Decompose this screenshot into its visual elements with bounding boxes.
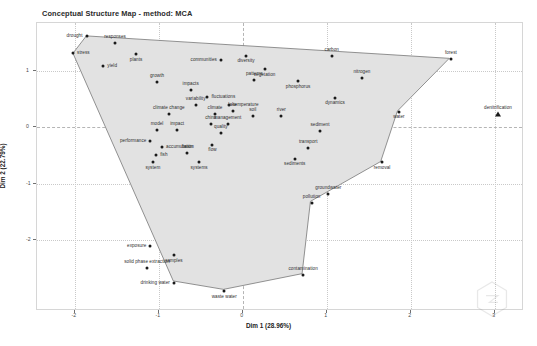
data-point[interactable]: [297, 80, 300, 83]
data-point-label: model: [151, 123, 164, 128]
data-point-label: responses: [104, 35, 126, 40]
data-point-label: systems: [190, 166, 207, 171]
data-point[interactable]: [172, 254, 175, 257]
y-tick-label: -1: [26, 180, 31, 186]
data-point[interactable]: [85, 34, 88, 37]
data-point[interactable]: [219, 132, 222, 135]
data-point[interactable]: [102, 64, 105, 67]
data-point-label: performance: [120, 139, 146, 144]
data-point[interactable]: [211, 143, 214, 146]
data-point-label: communities: [191, 58, 217, 63]
data-point-label: variability: [186, 97, 206, 102]
data-point[interactable]: [167, 112, 170, 115]
plot-panel: droughtresponsesstressplantsyieldcommuni…: [36, 22, 523, 310]
data-point[interactable]: [280, 115, 283, 118]
y-tickmark: [33, 70, 36, 71]
data-point-label: lake: [228, 104, 237, 109]
data-point-label: plants: [130, 58, 143, 63]
data-point-label: carbon: [325, 48, 339, 53]
data-point[interactable]: [156, 129, 159, 132]
data-point-label: river: [277, 109, 286, 114]
data-point[interactable]: [397, 110, 400, 113]
data-point[interactable]: [223, 290, 226, 293]
data-point[interactable]: [360, 76, 363, 79]
data-point[interactable]: [251, 114, 254, 117]
data-point[interactable]: [263, 68, 266, 71]
y-tickmark: [33, 239, 36, 240]
y-tick-label: -2: [26, 236, 31, 242]
data-point-label: growth: [150, 75, 164, 80]
data-point[interactable]: [189, 89, 192, 92]
data-point[interactable]: [293, 157, 296, 160]
page-title: Conceptual Structure Map - method: MCA: [42, 9, 192, 18]
gridline-vertical: [75, 23, 76, 309]
data-point-label: diversity: [237, 59, 254, 64]
data-point[interactable]: [307, 146, 310, 149]
data-point[interactable]: [327, 193, 330, 196]
data-point[interactable]: [72, 52, 75, 55]
data-point[interactable]: [186, 151, 189, 154]
data-point[interactable]: [155, 153, 158, 156]
data-point[interactable]: [135, 53, 138, 56]
gridline-vertical: [327, 23, 328, 309]
data-point[interactable]: [253, 79, 256, 82]
data-point-label: dynamics: [325, 101, 345, 106]
x-tick-label: -1: [155, 312, 160, 318]
data-point[interactable]: [206, 95, 209, 98]
data-point[interactable]: [334, 96, 337, 99]
gridline-horizontal: [37, 127, 522, 128]
y-axis-label: Dim 2 (22.79%): [0, 143, 6, 188]
data-point-label: phosphorus: [286, 85, 311, 90]
data-point[interactable]: [245, 54, 248, 57]
data-point[interactable]: [209, 123, 212, 126]
data-point[interactable]: [219, 59, 222, 62]
data-point-label: contamination: [289, 268, 318, 273]
data-point-label: flow: [208, 148, 216, 153]
data-point-label: management: [214, 116, 241, 121]
data-point[interactable]: [495, 111, 501, 116]
data-point-label: groundwater: [315, 187, 341, 192]
data-point-label: climate: [208, 106, 223, 111]
data-point[interactable]: [231, 110, 234, 113]
data-point-label: sediments: [284, 162, 305, 167]
x-tick-label: 0: [240, 312, 243, 318]
data-point[interactable]: [161, 146, 164, 149]
data-point-label: nitrogen: [353, 70, 370, 75]
data-point[interactable]: [449, 57, 452, 60]
data-point[interactable]: [194, 103, 197, 106]
data-point-label: waste water: [212, 295, 237, 300]
data-point-label: pollution: [303, 195, 321, 200]
data-point[interactable]: [302, 274, 305, 277]
data-point-label: quality: [214, 126, 228, 131]
data-point-label: transport: [299, 140, 318, 145]
data-point-label: fluctuations: [211, 95, 235, 100]
x-tick-label: 2: [408, 312, 411, 318]
gridline-vertical: [495, 23, 496, 309]
data-point[interactable]: [330, 54, 333, 57]
data-point-label: drought: [67, 34, 83, 39]
data-point-label: impacts: [183, 83, 199, 88]
data-point[interactable]: [149, 245, 152, 248]
data-point-label: impact: [170, 123, 184, 128]
y-tick-label: 1: [26, 67, 29, 73]
data-point[interactable]: [198, 161, 201, 164]
data-point[interactable]: [149, 140, 152, 143]
data-point[interactable]: [151, 161, 154, 164]
data-point-label: yield: [107, 64, 117, 69]
data-point[interactable]: [145, 266, 148, 269]
data-point-label: patterns: [246, 72, 263, 77]
data-point-label: fish: [160, 152, 167, 157]
gridline-horizontal: [37, 240, 522, 241]
data-point[interactable]: [310, 201, 313, 204]
data-point[interactable]: [176, 129, 179, 132]
data-point-label: denitrification: [484, 106, 512, 111]
data-point[interactable]: [172, 281, 175, 284]
data-point[interactable]: [156, 81, 159, 84]
data-point-label: climate change: [153, 106, 185, 111]
data-point[interactable]: [114, 41, 117, 44]
conceptual-structure-map: Conceptual Structure Map - method: MCA d…: [0, 0, 537, 346]
y-tick-label: 0: [26, 123, 29, 129]
data-point[interactable]: [318, 129, 321, 132]
data-point-label: stress: [77, 51, 90, 56]
data-point[interactable]: [381, 161, 384, 164]
